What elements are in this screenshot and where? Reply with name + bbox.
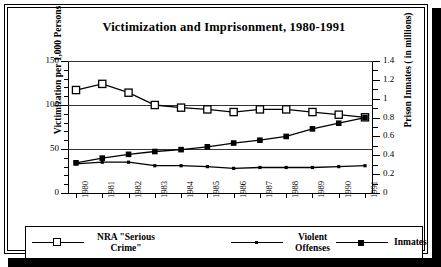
- marker-point: [179, 164, 182, 167]
- marker-point: [232, 167, 235, 170]
- legend-swatch-small-dot: [231, 237, 283, 249]
- marker-point: [257, 137, 263, 143]
- series-1: [72, 80, 368, 121]
- legend-swatch-open-square: [32, 237, 84, 249]
- marker-point: [126, 152, 132, 158]
- legend-label: Inmates: [394, 237, 424, 248]
- marker-point: [256, 106, 263, 113]
- series-line: [76, 118, 365, 163]
- legend-item-2[interactable]: Violent Offenses: [231, 227, 336, 258]
- series-line: [76, 162, 365, 168]
- marker-point: [230, 108, 237, 115]
- marker-point: [178, 147, 184, 153]
- series-3: [73, 115, 368, 166]
- series-2: [74, 161, 366, 170]
- marker-point: [335, 111, 342, 118]
- marker-point: [258, 166, 261, 169]
- marker-point: [285, 166, 288, 169]
- marker-point: [101, 161, 104, 164]
- marker-point: [72, 86, 79, 93]
- marker-point: [311, 166, 314, 169]
- marker-point: [231, 140, 237, 146]
- legend-swatch-filled-square: [336, 237, 388, 249]
- series-line: [76, 84, 365, 117]
- marker-point: [73, 160, 79, 166]
- legend-item-1[interactable]: NRA "Serious Crime": [32, 227, 162, 258]
- marker-point: [152, 149, 158, 155]
- marker-point: [204, 106, 211, 113]
- chart-legend: NRA "Serious Crime"Violent OffensesInmat…: [25, 226, 423, 259]
- marker-point: [99, 155, 105, 161]
- marker-point: [125, 89, 132, 96]
- marker-point: [99, 80, 106, 87]
- marker-point: [283, 134, 289, 140]
- marker-point: [177, 104, 184, 111]
- marker-point: [206, 165, 209, 168]
- marker-point: [336, 120, 342, 126]
- marker-point: [337, 165, 340, 168]
- marker-point: [309, 108, 316, 115]
- marker-point: [205, 144, 211, 150]
- marker-point: [151, 101, 158, 108]
- legend-row: NRA "Serious Crime"Violent OffensesInmat…: [26, 227, 424, 258]
- marker-point: [363, 164, 366, 167]
- chart-figure: Victimization and Imprisonment, 1980-199…: [0, 0, 441, 267]
- marker-point: [310, 126, 316, 132]
- legend-label: NRA "Serious Crime": [90, 232, 162, 254]
- legend-marker-small-dot: [255, 241, 258, 244]
- legend-marker-filled-square: [358, 240, 364, 246]
- marker-point: [283, 106, 290, 113]
- legend-item-3[interactable]: Inmates: [336, 227, 424, 258]
- inner-frame: Victimization and Imprisonment, 1980-199…: [7, 7, 425, 251]
- marker-point: [127, 161, 130, 164]
- legend-marker-open-square: [53, 238, 61, 246]
- marker-point: [362, 115, 368, 121]
- marker-point: [153, 164, 156, 167]
- legend-label: Violent Offenses: [289, 232, 336, 254]
